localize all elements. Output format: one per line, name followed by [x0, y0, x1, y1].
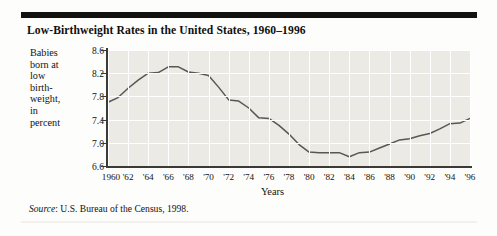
- gridline-vertical: [128, 50, 129, 166]
- x-tick-label: '86: [364, 172, 375, 182]
- x-axis-title: Years: [0, 186, 497, 197]
- source-label: Source: [29, 203, 55, 214]
- gridline-vertical: [229, 50, 230, 166]
- y-tick-mark: [101, 143, 106, 144]
- gridline-vertical: [108, 50, 109, 166]
- source-text: : U.S. Bureau of the Census, 1998.: [55, 203, 188, 214]
- x-axis-title-text: Years: [261, 186, 284, 197]
- gridline-horizontal: [108, 143, 470, 144]
- y-tick-mark: [101, 50, 106, 51]
- x-tick-label: 1960: [102, 172, 120, 182]
- gridline-horizontal: [108, 96, 470, 97]
- gridline-vertical: [289, 50, 290, 166]
- gridline-horizontal: [108, 50, 470, 51]
- y-tick-mark: [101, 120, 106, 121]
- y-tick-mark: [101, 166, 106, 167]
- gridline-horizontal: [108, 120, 470, 121]
- bottom-edge-divider: [21, 221, 477, 223]
- gridline-vertical: [249, 50, 250, 166]
- gridline-vertical: [168, 50, 169, 166]
- y-tick-label-group: 8.68.27.87.47.06.6: [78, 44, 104, 172]
- x-tick-label: '84: [344, 172, 355, 182]
- y-tick-mark: [101, 96, 106, 97]
- x-tick-label-group: 1960'62'64'66'68'70'72'74'76'78'80'82'84…: [0, 172, 497, 186]
- y-tick-mark: [101, 73, 106, 74]
- plot-area: [108, 50, 470, 166]
- x-tick-label: '74: [243, 172, 254, 182]
- gridline-vertical: [369, 50, 370, 166]
- x-tick-label: '88: [384, 172, 395, 182]
- gridline-horizontal: [108, 73, 470, 74]
- x-tick-label: '82: [324, 172, 335, 182]
- gridline-vertical: [470, 50, 471, 166]
- gridline-vertical: [209, 50, 210, 166]
- x-tick-label: '90: [404, 172, 415, 182]
- x-axis-line: [106, 166, 472, 168]
- x-tick-label: '66: [163, 172, 174, 182]
- gridline-vertical: [188, 50, 189, 166]
- gridline-vertical: [148, 50, 149, 166]
- x-tick-label: '96: [465, 172, 476, 182]
- gridline-vertical: [269, 50, 270, 166]
- x-tick-label: '72: [223, 172, 234, 182]
- x-tick-label: '92: [424, 172, 435, 182]
- x-tick-label: '70: [203, 172, 214, 182]
- x-tick-label: '94: [444, 172, 455, 182]
- figure-panel: Low-Birthweight Rates in the United Stat…: [0, 0, 497, 236]
- gridline-vertical: [430, 50, 431, 166]
- page-title: Low-Birthweight Rates in the United Stat…: [27, 24, 457, 37]
- x-tick-label: '68: [183, 172, 194, 182]
- gridline-vertical: [410, 50, 411, 166]
- gridline-vertical: [329, 50, 330, 166]
- x-tick-label: '62: [123, 172, 134, 182]
- x-tick-label: '78: [284, 172, 295, 182]
- source-note: Source: U.S. Bureau of the Census, 1998.: [29, 203, 189, 214]
- gridline-vertical: [349, 50, 350, 166]
- gridline-vertical: [390, 50, 391, 166]
- gridline-vertical: [309, 50, 310, 166]
- y-axis-line: [106, 48, 108, 168]
- x-tick-label: '76: [263, 172, 274, 182]
- x-tick-label: '80: [304, 172, 315, 182]
- top-rule-divider: [21, 12, 477, 18]
- x-tick-label: '64: [143, 172, 154, 182]
- gridline-vertical: [450, 50, 451, 166]
